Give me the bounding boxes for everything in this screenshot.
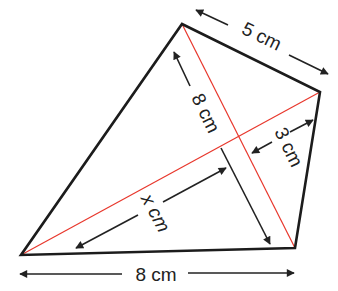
dimension-perpendicular: 3 cm — [252, 120, 313, 170]
quadrilateral-diagram: 5 cm 8 cm 3 cm x cm 8 cm — [0, 0, 338, 291]
label-top-side: 5 cm — [239, 18, 285, 55]
diagonal-bottom-left-to-right — [21, 92, 320, 255]
dimension-unknown: x cm — [76, 168, 226, 248]
dimension-diagonal: 8 cm — [174, 52, 270, 244]
dimension-bottom-side: 8 cm — [20, 264, 294, 285]
label-perpendicular: 3 cm — [270, 124, 307, 170]
label-unknown: x cm — [137, 189, 175, 235]
label-bottom-side: 8 cm — [135, 264, 176, 285]
